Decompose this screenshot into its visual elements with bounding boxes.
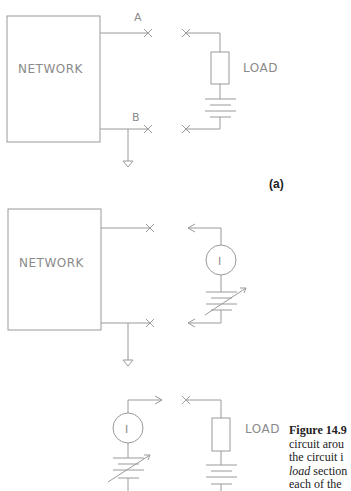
caption-line: circuit arou [289, 438, 351, 452]
load-resistor [211, 52, 229, 84]
variable-battery-icon [108, 455, 150, 491]
panel-a-tag: (a) [269, 177, 284, 191]
figure-caption: Figure 14.9 circuit arou the circuit i l… [289, 424, 351, 491]
caption-line: load section [289, 465, 351, 479]
ground-icon [123, 161, 133, 167]
battery-icon [205, 99, 236, 117]
circuit-diagram: NETWORK A B LOAD [0, 0, 351, 491]
current-source-symbol: I [218, 255, 221, 268]
network-label: NETWORK [19, 256, 85, 270]
panel-a: NETWORK A B LOAD [7, 11, 278, 167]
caption-line: each of the [289, 478, 351, 491]
variable-battery-icon [205, 288, 246, 315]
load-label: LOAD [245, 422, 280, 436]
caption-line-rest: section [313, 464, 347, 478]
battery-icon [206, 465, 237, 491]
panel-b: NETWORK I [8, 209, 246, 366]
network-box [7, 16, 100, 142]
network-label: NETWORK [18, 62, 84, 76]
current-source-symbol: I [125, 423, 128, 436]
caption-line: the circuit i [289, 451, 351, 465]
caption-figure-number: Figure 14.9 [289, 424, 347, 437]
ground-icon [123, 360, 133, 366]
load-label: LOAD [243, 61, 278, 75]
terminal-a-label: A [134, 11, 142, 24]
load-resistor [212, 418, 230, 451]
terminal-b-label: B [132, 111, 140, 124]
caption-italic-word: load [289, 464, 310, 478]
panel-c: I LOAD [108, 396, 280, 491]
